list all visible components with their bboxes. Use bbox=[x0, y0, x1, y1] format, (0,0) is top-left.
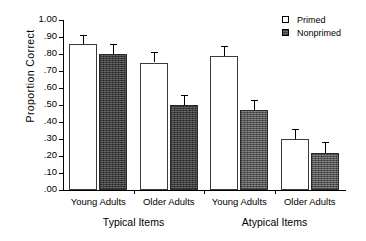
error-bar-cap bbox=[251, 100, 258, 101]
legend-item-primed[interactable]: Primed bbox=[282, 13, 341, 26]
legend-item-nonprimed[interactable]: Nonprimed bbox=[282, 26, 341, 39]
y-tick-mark bbox=[59, 105, 64, 106]
error-bar-cap bbox=[151, 52, 158, 53]
y-tick-label: .00 bbox=[44, 183, 57, 194]
bar-primed-2 bbox=[210, 56, 238, 190]
y-tick-mark bbox=[59, 20, 64, 21]
bar-primed-0 bbox=[69, 44, 97, 190]
bar-nonprimed-3 bbox=[311, 153, 339, 190]
x-axis-label-1: Older Adults bbox=[134, 196, 205, 207]
legend-label: Primed bbox=[297, 15, 326, 25]
y-tick-mark bbox=[59, 190, 64, 191]
y-tick-label: .10 bbox=[44, 166, 57, 177]
bar-primed-1 bbox=[140, 63, 168, 191]
y-tick-label: .90 bbox=[44, 30, 57, 41]
bar-nonprimed-0 bbox=[99, 54, 127, 190]
error-bar-stem bbox=[254, 100, 255, 110]
y-tick-label: .20 bbox=[44, 149, 57, 160]
legend: PrimedNonprimed bbox=[282, 13, 341, 39]
x-axis-label-0: Young Adults bbox=[63, 196, 134, 207]
bar-chart-figure: Proportion Correct .00.10.20.30.40.50.60… bbox=[0, 0, 366, 241]
y-tick-mark bbox=[59, 37, 64, 38]
y-tick-label: .40 bbox=[44, 115, 57, 126]
error-bar-stem bbox=[83, 35, 84, 44]
y-tick-label: 1.00 bbox=[39, 13, 58, 24]
y-tick-mark bbox=[59, 122, 64, 123]
error-bar-cap bbox=[322, 142, 329, 143]
bar-nonprimed-2 bbox=[240, 110, 268, 190]
open-square-icon bbox=[282, 16, 289, 23]
error-bar-cap bbox=[80, 35, 87, 36]
bar-primed-3 bbox=[281, 139, 309, 190]
x-axis-group-label-0: Typical Items bbox=[63, 216, 204, 228]
error-bar-cap bbox=[181, 95, 188, 96]
y-tick-mark bbox=[59, 173, 64, 174]
x-tick-mark bbox=[204, 190, 205, 194]
y-axis-title: Proportion Correct bbox=[24, 0, 36, 161]
y-tick-mark bbox=[59, 139, 64, 140]
y-tick-label: .80 bbox=[44, 47, 57, 58]
plot-area: .00.10.20.30.40.50.60.70.80.901.00 bbox=[63, 20, 345, 190]
legend-label: Nonprimed bbox=[297, 28, 341, 38]
y-tick-label: .30 bbox=[44, 132, 57, 143]
x-axis-label-2: Young Adults bbox=[204, 196, 275, 207]
x-tick-mark bbox=[134, 190, 135, 194]
error-bar-stem bbox=[184, 95, 185, 105]
error-bar-stem bbox=[295, 129, 296, 139]
error-bar-stem bbox=[325, 142, 326, 152]
error-bar-stem bbox=[113, 44, 114, 54]
x-tick-mark bbox=[275, 190, 276, 194]
error-bar-stem bbox=[154, 52, 155, 62]
bar-nonprimed-1 bbox=[170, 105, 198, 190]
error-bar-cap bbox=[292, 129, 299, 130]
error-bar-cap bbox=[221, 46, 228, 47]
x-axis-label-3: Older Adults bbox=[275, 196, 346, 207]
y-tick-label: .50 bbox=[44, 98, 57, 109]
y-tick-label: .60 bbox=[44, 81, 57, 92]
error-bar-cap bbox=[110, 44, 117, 45]
y-tick-mark bbox=[59, 156, 64, 157]
y-tick-label: .70 bbox=[44, 64, 57, 75]
error-bar-stem bbox=[224, 46, 225, 56]
y-tick-mark bbox=[59, 71, 64, 72]
y-tick-mark bbox=[59, 88, 64, 89]
x-axis-group-label-1: Atypical Items bbox=[204, 216, 345, 228]
y-tick-mark bbox=[59, 54, 64, 55]
filled-square-icon bbox=[282, 29, 289, 36]
